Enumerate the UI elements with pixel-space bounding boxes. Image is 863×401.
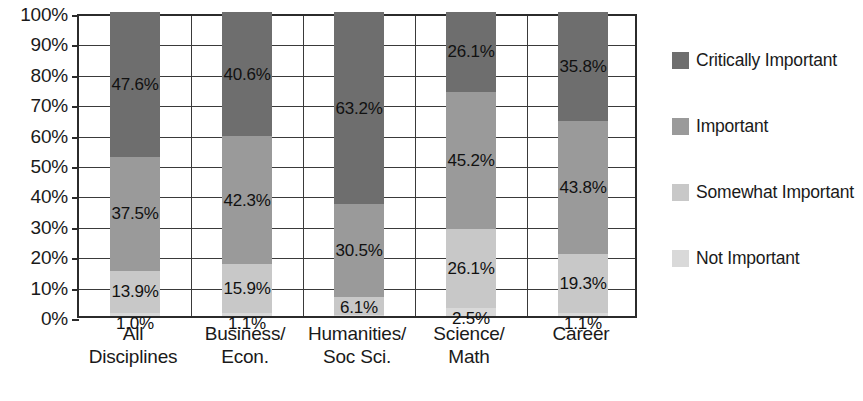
legend-item[interactable]: Important bbox=[672, 118, 768, 136]
bar-segment[interactable]: 1.0% bbox=[110, 313, 160, 316]
legend-item[interactable]: Somewhat Important bbox=[672, 184, 854, 202]
y-axis-tick-mark bbox=[72, 319, 79, 321]
bar-segment[interactable]: 45.2% bbox=[446, 92, 496, 229]
bar-segment[interactable]: 13.9% bbox=[110, 271, 160, 313]
y-axis-tick-mark bbox=[72, 137, 79, 139]
bar-segment[interactable]: 2.5% bbox=[446, 308, 496, 316]
legend-item[interactable]: Critically Important bbox=[672, 52, 837, 70]
bar-segment-value-label: 45.2% bbox=[447, 152, 494, 169]
stacked-bar-chart: 100%90%80%70%60%50%40%30%20%10%0% 1.0%13… bbox=[0, 0, 863, 401]
legend-swatch-icon bbox=[672, 250, 689, 267]
legend-label: Critically Important bbox=[696, 52, 837, 70]
y-axis-tick-label: 30% bbox=[31, 217, 68, 236]
bar-segment[interactable]: 63.2% bbox=[334, 12, 384, 204]
bar-segment[interactable]: 30.5% bbox=[334, 204, 384, 297]
bar-segment[interactable]: 26.1% bbox=[446, 12, 496, 91]
y-axis-tick-label: 70% bbox=[31, 96, 68, 115]
bar-stack[interactable]: 1.1%19.3%43.8%35.8% bbox=[558, 16, 608, 316]
y-axis-tick-mark bbox=[72, 106, 79, 108]
bar-segment-value-label: 43.8% bbox=[559, 179, 606, 196]
bar-segment-value-label: 40.6% bbox=[223, 66, 270, 83]
bar-stack[interactable]: 1.0%13.9%37.5%47.6% bbox=[110, 16, 160, 316]
legend-swatch-icon bbox=[672, 52, 689, 69]
bar-segment-value-label: 42.3% bbox=[223, 192, 270, 209]
bar-segment[interactable]: 26.1% bbox=[446, 229, 496, 308]
bar-segment[interactable]: 37.5% bbox=[110, 157, 160, 271]
bar-segment[interactable]: 1.1% bbox=[558, 313, 608, 316]
y-axis-tick-mark bbox=[72, 289, 79, 291]
x-axis-category-line-1: Science/ bbox=[433, 323, 504, 344]
bar-stack[interactable]: 6.1%30.5%63.2% bbox=[334, 16, 384, 316]
legend-label: Important bbox=[696, 118, 768, 136]
y-axis-tick-mark bbox=[72, 197, 79, 199]
bar-segment[interactable]: 47.6% bbox=[110, 12, 160, 157]
y-axis-tick-label: 50% bbox=[31, 157, 68, 176]
bar-segment[interactable]: 43.8% bbox=[558, 121, 608, 254]
bar-segment[interactable]: 15.9% bbox=[222, 264, 272, 312]
y-axis-tick-label: 60% bbox=[31, 126, 68, 145]
y-axis-tick-label: 80% bbox=[31, 65, 68, 84]
bar-segment-value-label: 37.5% bbox=[111, 205, 158, 222]
bar-stack[interactable]: 2.5%26.1%45.2%26.1% bbox=[446, 16, 496, 316]
bar-segment-value-label: 15.9% bbox=[223, 280, 270, 297]
bar-stack[interactable]: 1.1%15.9%42.3%40.6% bbox=[222, 16, 272, 316]
y-axis-tick-labels: 100%90%80%70%60%50%40%30%20%10%0% bbox=[0, 14, 72, 318]
x-axis-category-line-2: Soc Sci. bbox=[301, 345, 413, 368]
legend-swatch-icon bbox=[672, 118, 689, 135]
bar-segment-value-label: 19.3% bbox=[559, 275, 606, 292]
x-axis-category-line-2: Disciplines bbox=[77, 345, 189, 368]
x-axis-category-line-1: Business/ bbox=[205, 323, 286, 344]
x-axis-category-line-2: Econ. bbox=[189, 345, 301, 368]
bar-segment[interactable]: 1.1% bbox=[222, 313, 272, 316]
bar-segment[interactable]: 40.6% bbox=[222, 12, 272, 135]
x-axis-category-label: AllDisciplines bbox=[77, 322, 189, 368]
bar-segment[interactable]: 6.1% bbox=[334, 297, 384, 316]
x-axis-category-label: Science/Math bbox=[413, 322, 525, 368]
x-axis-category-label: Humanities/Soc Sci. bbox=[301, 322, 413, 368]
y-axis-tick-mark bbox=[72, 167, 79, 169]
legend-item[interactable]: Not Important bbox=[672, 250, 799, 268]
y-axis-tick-label: 20% bbox=[31, 248, 68, 267]
x-axis-category-line-1: Humanities/ bbox=[308, 323, 406, 344]
y-axis-tick-mark bbox=[72, 228, 79, 230]
bar-segment-value-label: 35.8% bbox=[559, 58, 606, 75]
y-axis-tick-mark bbox=[72, 45, 79, 47]
bar-segment-value-label: 6.1% bbox=[340, 299, 378, 316]
plot-area: 1.0%13.9%37.5%47.6%1.1%15.9%42.3%40.6%6.… bbox=[77, 14, 637, 318]
legend-label: Somewhat Important bbox=[696, 184, 854, 202]
category-divider bbox=[527, 16, 528, 316]
x-axis-category-line-1: Career bbox=[553, 323, 610, 344]
bar-segment[interactable]: 19.3% bbox=[558, 254, 608, 313]
bar-segment-value-label: 30.5% bbox=[335, 242, 382, 259]
y-axis-tick-label: 90% bbox=[31, 35, 68, 54]
category-divider bbox=[415, 16, 416, 316]
bar-segment-value-label: 26.1% bbox=[447, 260, 494, 277]
bar-segment[interactable]: 35.8% bbox=[558, 12, 608, 121]
y-axis-tick-mark bbox=[72, 258, 79, 260]
x-axis-category-label: Career bbox=[525, 322, 637, 345]
bar-segment[interactable]: 42.3% bbox=[222, 136, 272, 265]
y-axis-tick-label: 100% bbox=[20, 5, 68, 24]
bar-segment-value-label: 13.9% bbox=[111, 283, 158, 300]
legend-swatch-icon bbox=[672, 184, 689, 201]
bar-segment-value-label: 63.2% bbox=[335, 100, 382, 117]
category-divider bbox=[303, 16, 304, 316]
y-axis-tick-label: 10% bbox=[31, 278, 68, 297]
y-axis-tick-mark bbox=[72, 15, 79, 17]
bar-segment-value-label: 47.6% bbox=[111, 76, 158, 93]
y-axis-tick-label: 40% bbox=[31, 187, 68, 206]
bar-segment-value-label: 26.1% bbox=[447, 43, 494, 60]
y-axis-tick-label: 0% bbox=[41, 309, 68, 328]
x-axis-category-label: Business/Econ. bbox=[189, 322, 301, 368]
category-divider bbox=[191, 16, 192, 316]
y-axis-tick-mark bbox=[72, 76, 79, 78]
x-axis-category-labels: AllDisciplinesBusiness/Econ.Humanities/S… bbox=[77, 322, 637, 382]
legend-label: Not Important bbox=[696, 250, 799, 268]
x-axis-category-line-2: Math bbox=[413, 345, 525, 368]
x-axis-category-line-1: All bbox=[123, 323, 144, 344]
